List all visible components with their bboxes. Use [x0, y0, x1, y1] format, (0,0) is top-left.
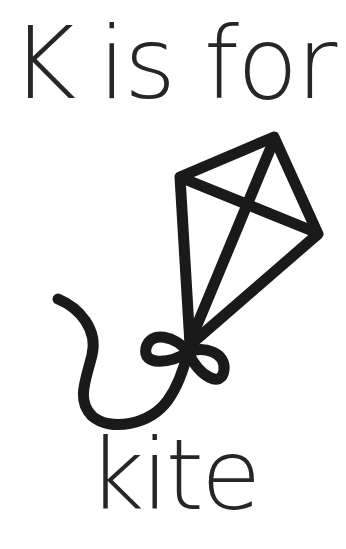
- bow-right-loop: [188, 350, 224, 379]
- word-kite: kite: [0, 426, 346, 524]
